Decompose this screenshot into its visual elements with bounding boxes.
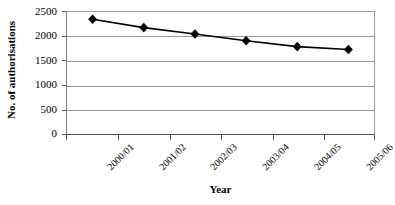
x-tick-label-2000-01: 2000/01 <box>106 142 136 172</box>
y-axis-title: No. of authorisations <box>0 0 22 140</box>
x-tick-mark-4 <box>273 135 274 140</box>
y-tick-label-0: 0 <box>52 128 58 139</box>
x-tick-mark-5 <box>324 135 325 140</box>
series-line-no-of-authorisations <box>67 12 374 134</box>
y-tick-label-2000: 2000 <box>35 30 57 41</box>
x-tick-label-2004-05: 2004/05 <box>313 142 343 172</box>
plot-area <box>66 11 375 135</box>
x-tick-mark-0 <box>66 135 67 140</box>
x-tick-label-2005-06: 2005/06 <box>365 142 395 172</box>
x-tick-mark-6 <box>374 135 375 140</box>
y-axis-tick-labels: 2500 2000 1500 1000 500 0 <box>22 0 62 145</box>
x-tick-mark-3 <box>221 135 222 140</box>
x-tick-label-2002-03: 2002/03 <box>209 142 239 172</box>
x-axis-title: Year <box>66 183 375 195</box>
y-axis-title-text: No. of authorisations <box>5 21 17 119</box>
series-polyline <box>93 19 349 49</box>
y-tick-label-2500: 2500 <box>35 6 57 17</box>
data-point-2000/01 <box>88 15 96 24</box>
y-tick-label-500: 500 <box>41 104 58 115</box>
data-point-2001/02 <box>140 23 148 32</box>
x-tick-mark-1 <box>118 135 119 140</box>
data-point-2002/03 <box>191 29 199 38</box>
y-tick-label-1500: 1500 <box>35 55 57 66</box>
data-point-2005/06 <box>344 45 352 54</box>
x-tick-label-2003-04: 2003/04 <box>261 142 291 172</box>
y-tick-label-1000: 1000 <box>35 79 57 90</box>
data-point-2004/05 <box>293 42 301 51</box>
x-tick-mark-2 <box>170 135 171 140</box>
x-tick-label-2001-02: 2001/02 <box>158 142 188 172</box>
data-point-2003/04 <box>242 36 250 45</box>
